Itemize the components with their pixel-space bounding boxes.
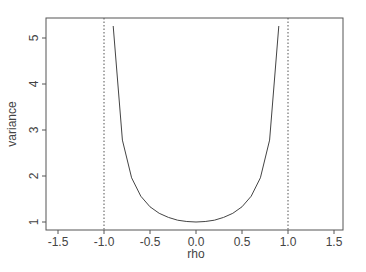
y-tick-label: 3 <box>27 126 41 133</box>
x-tick-label: 1.5 <box>326 235 343 249</box>
x-tick-label: -0.5 <box>140 235 161 249</box>
y-axis-label: variance <box>5 101 19 147</box>
x-tick-label: -1.0 <box>94 235 115 249</box>
x-tick-label: 0.5 <box>234 235 251 249</box>
reference-lines <box>104 18 288 230</box>
y-tick-label: 5 <box>27 34 41 41</box>
x-tick-label: -1.5 <box>48 235 69 249</box>
y-tick-label: 4 <box>27 80 41 87</box>
y-tick-label: 1 <box>27 218 41 225</box>
y-tick-label: 2 <box>27 172 41 179</box>
y-axis: 12345 <box>27 34 46 225</box>
variance-vs-rho-chart: -1.5-1.0-0.50.00.51.01.5 12345 rho varia… <box>0 0 366 272</box>
x-axis-label: rho <box>187 247 205 261</box>
plot-frame <box>46 18 343 230</box>
variance-curve <box>113 26 279 222</box>
x-tick-label: 1.0 <box>280 235 297 249</box>
